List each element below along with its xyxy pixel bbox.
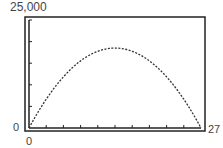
data-curve <box>29 48 201 128</box>
frame <box>25 17 205 131</box>
plot-area <box>0 0 223 148</box>
ticks <box>29 20 184 128</box>
